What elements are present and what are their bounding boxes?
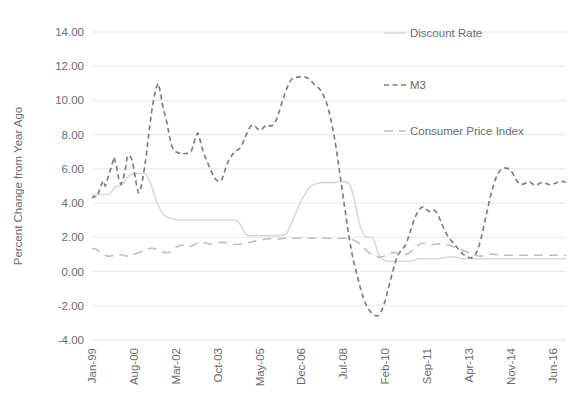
y-tick-label: -4.00: [58, 334, 84, 346]
x-tick-label: May-05: [254, 348, 266, 386]
y-tick-label: 0.00: [62, 266, 84, 278]
y-tick-label: 14.00: [55, 26, 84, 38]
y-tick-label: 12.00: [55, 60, 84, 72]
y-axis-title: Percent Change from Year Ago: [12, 107, 24, 266]
x-tick-label: Oct-03: [212, 348, 224, 383]
x-tick-label: Jun-16: [547, 348, 559, 383]
line-chart: -4.00-2.000.002.004.006.008.0010.0012.00…: [0, 0, 574, 406]
legend-label: Consumer Price Index: [410, 125, 524, 137]
y-tick-label: 2.00: [62, 231, 84, 243]
chart-container: -4.00-2.000.002.004.006.008.0010.0012.00…: [0, 0, 574, 406]
x-tick-label: Apr-13: [463, 348, 475, 383]
y-tick-label: 4.00: [62, 197, 84, 209]
y-tick-label: 6.00: [62, 163, 84, 175]
x-tick-label: Sep-11: [421, 348, 433, 384]
x-tick-label: Jan-99: [86, 348, 98, 383]
y-tick-label: -2.00: [58, 300, 84, 312]
x-tick-label: Nov-14: [505, 347, 517, 385]
y-tick-label: 8.00: [62, 129, 84, 141]
x-tick-label: Feb-10: [379, 348, 391, 384]
y-tick-label: 10.00: [55, 94, 84, 106]
legend-label: M3: [410, 79, 426, 91]
x-tick-label: Jul-08: [337, 348, 349, 379]
x-tick-label: Mar-02: [170, 348, 182, 384]
x-tick-label: Dec-06: [295, 348, 307, 385]
legend-label: Discount Rate: [410, 27, 482, 39]
x-tick-label: Aug-00: [128, 348, 140, 385]
